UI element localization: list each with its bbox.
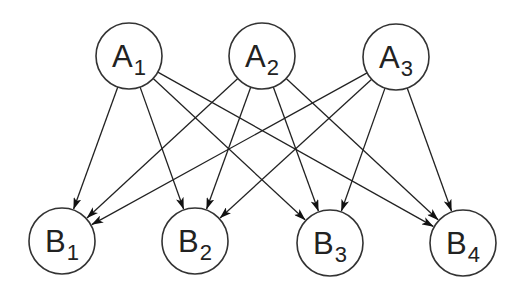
node-a3: A3 xyxy=(363,24,429,90)
edge-a3-to-b4 xyxy=(407,88,451,211)
nodes-layer: A1A2A3B1B2B3B4 xyxy=(29,23,496,276)
bipartite-graph: A1A2A3B1B2B3B4 xyxy=(0,0,523,305)
node-a2: A2 xyxy=(229,23,295,89)
edge-a3-to-b1 xyxy=(92,73,367,225)
edge-a1-to-b1 xyxy=(74,87,118,209)
edges-layer xyxy=(74,72,452,226)
edge-a2-to-b4 xyxy=(286,79,438,220)
node-a1: A1 xyxy=(96,23,162,89)
node-b2: B2 xyxy=(162,208,228,274)
node-b1: B1 xyxy=(29,208,95,274)
node-b4: B4 xyxy=(430,210,496,276)
edge-a2-to-b1 xyxy=(87,78,238,218)
edge-a3-to-b2 xyxy=(220,79,372,218)
edge-a2-to-b2 xyxy=(207,87,251,209)
node-b3: B3 xyxy=(297,210,363,276)
edge-a3-to-b3 xyxy=(341,88,385,211)
